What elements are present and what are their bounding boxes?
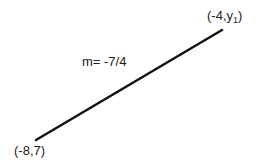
slope-diagram: (-4,y1) m= -7/4 (-8,7) <box>0 0 268 165</box>
slope-label: m= -7/4 <box>82 55 126 68</box>
point-label-end: (-4,y1) <box>207 9 242 25</box>
point-label-start: (-8,7) <box>14 144 45 157</box>
